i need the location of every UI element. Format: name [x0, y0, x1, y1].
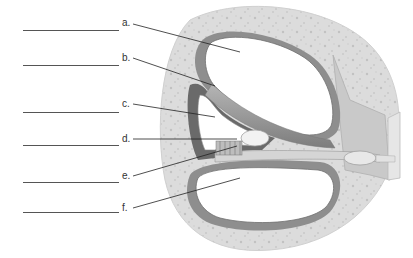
- cochlea-illustration: [0, 0, 413, 258]
- spiral-ganglion-edge: [388, 112, 400, 180]
- label-e: e.: [122, 171, 130, 181]
- tectorial-membrane: [241, 130, 269, 146]
- label-d: d.: [122, 134, 130, 144]
- label-f: f.: [122, 203, 128, 213]
- label-c: c.: [122, 99, 130, 109]
- label-b: b.: [122, 53, 130, 63]
- spiral-ganglion: [344, 151, 376, 165]
- scala-tympani: [187, 160, 340, 230]
- label-a: a.: [122, 18, 130, 28]
